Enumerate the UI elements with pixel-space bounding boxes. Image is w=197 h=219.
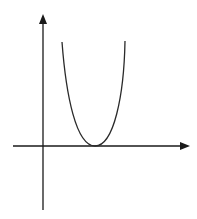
parabola-figure (0, 0, 197, 219)
parabola-curve (62, 41, 125, 146)
chart-canvas (0, 0, 197, 219)
x-axis-arrow-icon (180, 142, 190, 150)
y-axis-arrow-icon (39, 14, 47, 24)
